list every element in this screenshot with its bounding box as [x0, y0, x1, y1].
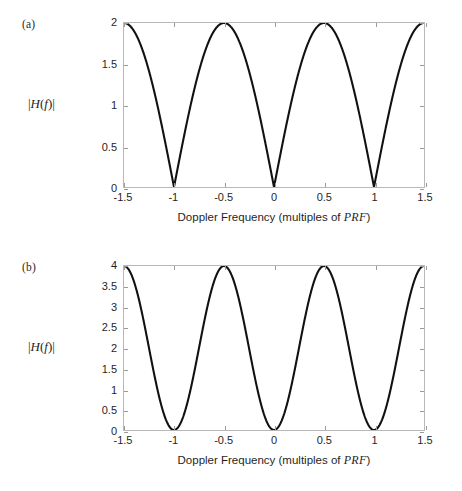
- x-tick-mark: [124, 183, 125, 187]
- figure-panel-b: (b) |H(f)| Doppler Frequency (multiples …: [0, 243, 462, 488]
- y-tick-label: 4: [79, 259, 117, 271]
- y-tick-mark: [124, 148, 128, 149]
- x-tick-mark: [275, 183, 276, 187]
- x-tick-mark: [376, 183, 377, 187]
- y-tick-mark: [420, 287, 424, 288]
- x-tick-mark: [225, 183, 226, 187]
- x-tick-label: -1: [168, 434, 178, 446]
- x-axis-label-math-b: PRF: [344, 453, 367, 467]
- y-tick-label: 2: [79, 16, 117, 28]
- x-tick-mark: [376, 266, 377, 270]
- y-tick-mark: [124, 432, 128, 433]
- x-tick-mark: [325, 23, 326, 27]
- x-tick-mark: [426, 426, 427, 430]
- y-tick-mark: [420, 266, 424, 267]
- x-axis-label-suffix-a: ): [367, 211, 371, 223]
- x-tick-mark: [325, 266, 326, 270]
- x-tick-mark: [325, 183, 326, 187]
- x-tick-mark: [174, 426, 175, 430]
- y-tick-mark: [124, 65, 128, 66]
- x-tick-label: 0: [271, 191, 277, 203]
- y-tick-mark: [124, 189, 128, 190]
- y-axis-label-a: |H(f)|: [28, 96, 55, 112]
- x-tick-label: -0.5: [214, 191, 233, 203]
- y-axis-label-b: |H(f)|: [28, 339, 55, 355]
- y-tick-label: 0: [79, 182, 117, 194]
- y-tick-label: 3.5: [79, 280, 117, 292]
- x-tick-mark: [376, 426, 377, 430]
- y-tick-mark: [420, 411, 424, 412]
- y-tick-mark: [420, 391, 424, 392]
- y-tick-mark: [124, 328, 128, 329]
- y-tick-mark: [124, 391, 128, 392]
- y-tick-label: 2.5: [79, 321, 117, 333]
- curve-plot-b: [124, 266, 424, 430]
- x-tick-mark: [174, 266, 175, 270]
- y-tick-mark: [124, 370, 128, 371]
- x-axis-label-suffix-b: ): [367, 454, 371, 466]
- x-tick-label: 1.5: [417, 434, 432, 446]
- y-tick-mark: [420, 349, 424, 350]
- y-tick-mark: [124, 266, 128, 267]
- x-tick-label: 0: [271, 434, 277, 446]
- y-tick-mark: [420, 148, 424, 149]
- y-tick-mark: [124, 308, 128, 309]
- y-tick-mark: [420, 432, 424, 433]
- y-tick-mark: [420, 23, 424, 24]
- x-tick-mark: [376, 23, 377, 27]
- x-tick-label: 1: [372, 191, 378, 203]
- y-tick-mark: [420, 189, 424, 190]
- y-tick-label: 0: [79, 425, 117, 437]
- x-tick-label: 0.5: [317, 191, 332, 203]
- x-tick-mark: [124, 426, 125, 430]
- x-axis-label-prefix-a: Doppler Frequency (multiples of: [178, 211, 344, 223]
- panel-label-b: (b): [22, 261, 36, 273]
- y-tick-label: 1.5: [79, 363, 117, 375]
- y-tick-label: 1: [79, 384, 117, 396]
- y-tick-label: 3: [79, 301, 117, 313]
- x-tick-mark: [225, 23, 226, 27]
- x-tick-label: -1: [168, 191, 178, 203]
- magnitude-response-curve-a: [124, 23, 424, 187]
- magnitude-response-curve-b: [124, 266, 424, 430]
- x-axis-label-b: Doppler Frequency (multiples of PRF): [123, 453, 425, 468]
- x-tick-mark: [275, 426, 276, 430]
- x-tick-mark: [426, 183, 427, 187]
- x-tick-label: 1: [372, 434, 378, 446]
- figure-panel-a: (a) |H(f)| Doppler Frequency (multiples …: [0, 0, 462, 245]
- x-tick-mark: [225, 426, 226, 430]
- x-tick-label: -0.5: [214, 434, 233, 446]
- y-tick-mark: [124, 411, 128, 412]
- y-tick-mark: [420, 106, 424, 107]
- curve-plot-a: [124, 23, 424, 187]
- x-tick-label: 0.5: [317, 434, 332, 446]
- y-tick-mark: [124, 349, 128, 350]
- x-tick-mark: [275, 266, 276, 270]
- y-tick-label: 0.5: [79, 404, 117, 416]
- x-axis-label-a: Doppler Frequency (multiples of PRF): [123, 210, 425, 225]
- y-tick-mark: [420, 328, 424, 329]
- x-tick-mark: [426, 266, 427, 270]
- y-tick-mark: [124, 287, 128, 288]
- y-tick-mark: [124, 106, 128, 107]
- panel-label-a: (a): [22, 18, 35, 30]
- y-tick-label: 1: [79, 99, 117, 111]
- y-tick-label: 1.5: [79, 58, 117, 70]
- x-tick-mark: [174, 183, 175, 187]
- x-axis-label-math-a: PRF: [344, 210, 367, 224]
- plot-area-a: [123, 22, 425, 188]
- y-tick-mark: [420, 65, 424, 66]
- x-tick-mark: [225, 266, 226, 270]
- y-tick-mark: [420, 308, 424, 309]
- y-tick-mark: [420, 370, 424, 371]
- x-tick-label: 1.5: [417, 191, 432, 203]
- x-tick-mark: [174, 23, 175, 27]
- y-tick-label: 0.5: [79, 141, 117, 153]
- x-tick-mark: [275, 23, 276, 27]
- y-tick-label: 2: [79, 342, 117, 354]
- x-axis-label-prefix-b: Doppler Frequency (multiples of: [178, 454, 344, 466]
- x-tick-mark: [325, 426, 326, 430]
- y-tick-mark: [124, 23, 128, 24]
- plot-area-b: [123, 265, 425, 431]
- x-tick-mark: [426, 23, 427, 27]
